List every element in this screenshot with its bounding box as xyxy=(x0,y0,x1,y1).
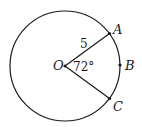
label-O: O xyxy=(53,58,64,73)
label-C: C xyxy=(113,99,123,114)
label-A: A xyxy=(112,22,122,37)
label-B: B xyxy=(124,58,135,73)
point-A xyxy=(108,32,111,35)
circle-diagram: O A B C 5 72° xyxy=(0,0,142,127)
angle-label: 72° xyxy=(73,60,94,74)
point-B xyxy=(118,63,121,66)
point-O xyxy=(63,64,66,67)
point-C xyxy=(108,97,111,100)
radius-label: 5 xyxy=(80,37,88,51)
